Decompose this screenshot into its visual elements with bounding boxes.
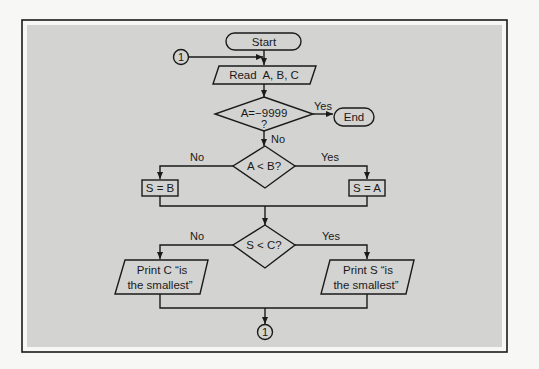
compare-ab-yes-label: Yes xyxy=(321,151,339,163)
assign-s-a-label: S = A xyxy=(353,182,381,194)
connector-in: 1 xyxy=(174,50,189,65)
connector-out: 1 xyxy=(258,325,273,340)
end-label: End xyxy=(344,111,364,123)
compare-ab-no-label: No xyxy=(190,151,204,163)
connector-out-label: 1 xyxy=(262,326,268,338)
print-c-label-line1: Print C “is xyxy=(137,264,188,276)
compare-sc-label: S < C? xyxy=(246,239,281,251)
compare-sc-no-label: No xyxy=(190,230,204,242)
end-terminal: End xyxy=(334,108,374,126)
start-label: Start xyxy=(252,36,277,48)
check-end-no-label: No xyxy=(271,133,285,145)
flowchart-canvas: Start 1 Read A, B, C A=−9999 ? Yes End N… xyxy=(0,0,539,369)
assign-s-b-node: S = B xyxy=(142,180,178,196)
assign-s-b-label: S = B xyxy=(146,182,175,194)
print-c-label-line2: the smallest” xyxy=(127,279,192,291)
check-end-yes-label: Yes xyxy=(314,100,332,112)
print-s-label-line2: the smallest” xyxy=(333,279,398,291)
print-s-output-node: Print S “is the smallest” xyxy=(321,260,414,294)
print-s-label-line1: Print S “is xyxy=(343,264,393,276)
connector-in-label: 1 xyxy=(178,51,184,63)
compare-ab-label: A < B? xyxy=(247,160,281,172)
check-end-label-line2: ? xyxy=(261,118,267,130)
compare-sc-yes-label: Yes xyxy=(322,230,340,242)
print-c-output-node: Print C “is the smallest” xyxy=(115,260,208,294)
assign-s-a-node: S = A xyxy=(349,180,385,196)
start-terminal: Start xyxy=(226,33,301,50)
read-label: Read A, B, C xyxy=(229,69,299,81)
read-input-node: Read A, B, C xyxy=(213,66,316,84)
